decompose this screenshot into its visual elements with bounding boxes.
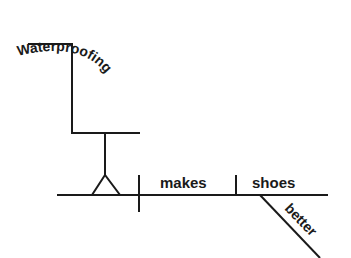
object-word: shoes bbox=[252, 174, 295, 191]
pedestal-triangle bbox=[92, 175, 120, 195]
sentence-diagram: Waterproofing makes shoes better bbox=[0, 0, 351, 258]
complement-word: better bbox=[282, 200, 321, 239]
verb-word: makes bbox=[160, 174, 207, 191]
